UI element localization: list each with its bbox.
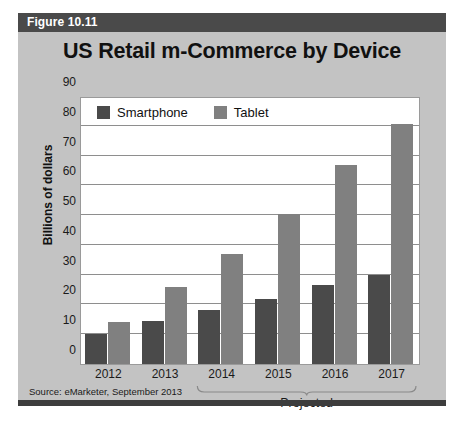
bar-tablet-2015 [278, 214, 300, 364]
y-tick-label: 20 [46, 283, 76, 297]
y-tick-label: 10 [46, 313, 76, 327]
x-tick-label-2013: 2013 [137, 367, 193, 381]
figure-card: Figure 10.11 US Retail m-Commerce by Dev… [18, 13, 446, 406]
y-tick-label: 60 [46, 164, 76, 178]
bar-group [138, 98, 195, 364]
bar-group [364, 98, 421, 364]
bar-tablet-2017 [391, 124, 413, 364]
bar-tablet-2014 [221, 254, 243, 364]
x-axis-tick-labels: 201220132014201520162017 [80, 367, 420, 385]
bar-smartphone-2015 [255, 299, 277, 365]
y-axis-tick-labels: 0102030405060708090 [42, 97, 76, 365]
y-tick-label: 30 [46, 254, 76, 268]
figure-header-bar: Figure 10.11 [18, 13, 446, 32]
y-tick-label: 90 [46, 75, 76, 89]
y-tick-label: 0 [46, 343, 76, 357]
x-tick-label-2015: 2015 [250, 367, 306, 381]
y-tick-label: 70 [46, 135, 76, 149]
figure-footer-bar [18, 400, 446, 406]
figure-number-label: Figure 10.11 [27, 15, 98, 29]
source-note: Source: eMarketer, September 2013 [29, 386, 182, 397]
y-tick-label: 50 [46, 194, 76, 208]
y-tick-label: 80 [46, 105, 76, 119]
x-tick-label-2016: 2016 [307, 367, 363, 381]
bar-tablet-2016 [335, 165, 357, 365]
bar-smartphone-2016 [312, 285, 334, 364]
bar-smartphone-2013 [142, 321, 164, 364]
chart-title: US Retail m-Commerce by Device [18, 39, 446, 64]
bar-group [194, 98, 251, 364]
bar-smartphone-2012 [85, 334, 107, 364]
bar-tablet-2012 [108, 322, 130, 364]
bar-group [81, 98, 138, 364]
bar-smartphone-2014 [198, 310, 220, 364]
bar-smartphone-2017 [368, 275, 390, 364]
bar-group [308, 98, 365, 364]
x-tick-label-2012: 2012 [80, 367, 136, 381]
figure-container: Figure 10.11 US Retail m-Commerce by Dev… [0, 0, 464, 422]
bar-tablet-2013 [165, 287, 187, 364]
y-tick-label: 40 [46, 224, 76, 238]
x-tick-label-2014: 2014 [194, 367, 250, 381]
bar-group [251, 98, 308, 364]
x-tick-label-2017: 2017 [364, 367, 420, 381]
plot-area: Smartphone Tablet [80, 97, 420, 365]
